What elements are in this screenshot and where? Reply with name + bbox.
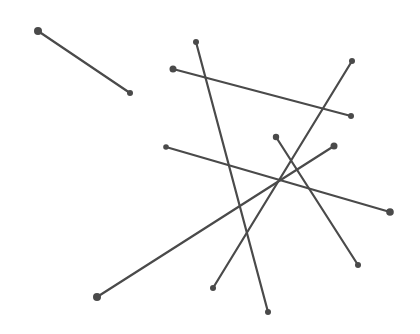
endpoint-dot-end [210, 285, 216, 291]
line-segment [193, 39, 271, 315]
endpoint-dot-start [331, 143, 338, 150]
line-segment [170, 66, 355, 120]
endpoint-dot-end [93, 293, 101, 301]
line-segment [163, 144, 394, 216]
endpoint-dot-start [34, 27, 42, 35]
segments-layer [34, 27, 394, 315]
line-segment [93, 143, 338, 302]
endpoint-dot-end [386, 208, 394, 216]
segment-line [173, 69, 351, 116]
segment-line [166, 147, 390, 212]
line-segment [34, 27, 133, 96]
endpoint-dot-end [355, 262, 361, 268]
segment-line [97, 146, 334, 297]
endpoint-dot-end [265, 309, 271, 315]
endpoint-dot-end [348, 113, 354, 119]
segment-line [196, 42, 268, 312]
segment-line [213, 61, 352, 288]
endpoint-dot-start [273, 134, 279, 140]
endpoint-dot-start [193, 39, 199, 45]
endpoint-dot-end [127, 90, 133, 96]
endpoint-dot-start [170, 66, 177, 73]
endpoint-dot-start [163, 144, 169, 150]
line-segments-diagram [0, 0, 420, 334]
line-segment [273, 134, 361, 268]
segment-line [38, 31, 130, 93]
endpoint-dot-start [349, 58, 355, 64]
